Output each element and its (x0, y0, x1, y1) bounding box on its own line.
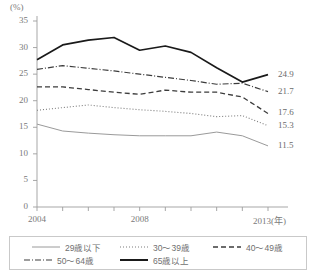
legend-line-swatch-icon (120, 256, 148, 264)
x-axis-tick-2004: 2004 (28, 214, 46, 224)
y-axis-tick-35: 35 (8, 15, 28, 25)
legend-item-50～64歳[interactable]: 50～64歳 (24, 253, 94, 266)
legend-line-swatch-icon (213, 243, 241, 251)
legend-line-swatch-icon (120, 243, 148, 251)
x-axis-tick-2008: 2008 (131, 214, 149, 224)
y-axis-tick-30: 30 (8, 42, 28, 52)
end-label-29歳以下: 11.5 (278, 140, 293, 150)
legend-item-label: 65歳以上 (153, 254, 189, 266)
end-label-30～39歳: 15.3 (278, 120, 294, 130)
series-line-30～39歳 (37, 105, 268, 126)
chart-container: (%) 05101520253035 200420082013(年) 11.51… (0, 0, 318, 278)
series-line-29歳以下 (37, 124, 268, 146)
y-axis-tick-5: 5 (8, 174, 28, 184)
y-axis-tick-25: 25 (8, 68, 28, 78)
legend-item-label: 40～49歳 (246, 241, 283, 253)
x-axis-tick-2013: 2013(年) (253, 214, 286, 227)
chart-legend: 29歳以下30～39歳40～49歳50～64歳65歳以上 (9, 236, 307, 270)
y-axis-tick-20: 20 (8, 95, 28, 105)
y-axis-tick-0: 0 (8, 201, 28, 211)
legend-item-40～49歳[interactable]: 40～49歳 (213, 240, 283, 253)
legend-item-label: 50～64歳 (57, 254, 94, 266)
legend-item-label: 29歳以下 (65, 241, 101, 253)
legend-line-swatch-icon (32, 243, 60, 251)
legend-item-label: 30～39歳 (153, 241, 190, 253)
y-axis-tick-15: 15 (8, 121, 28, 131)
legend-line-swatch-icon (24, 256, 52, 264)
legend-item-30～39歳[interactable]: 30～39歳 (120, 240, 190, 253)
legend-item-65歳以上[interactable]: 65歳以上 (120, 253, 189, 266)
end-label-50～64歳: 21.7 (278, 86, 294, 96)
series-line-65歳以上 (37, 37, 268, 82)
y-axis-tick-10: 10 (8, 148, 28, 158)
end-label-65歳以上: 24.9 (278, 69, 294, 79)
series-line-40～49歳 (37, 87, 268, 114)
legend-item-29歳以下[interactable]: 29歳以下 (32, 240, 101, 253)
end-label-40～49歳: 17.6 (278, 107, 294, 117)
